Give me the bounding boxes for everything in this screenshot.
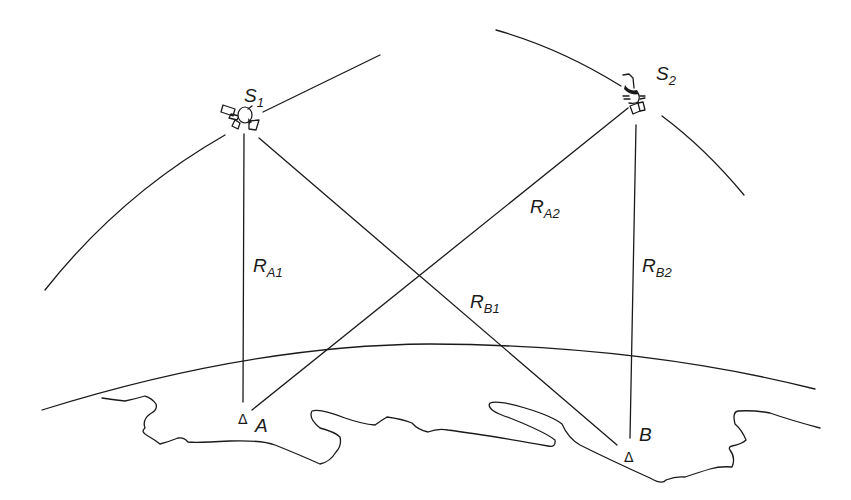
- station-label-B: B: [639, 424, 652, 445]
- range-label-RB2: RB2: [642, 255, 672, 280]
- range-label-RA2: RA2: [530, 196, 560, 221]
- station-marker-B: Δ: [624, 449, 634, 465]
- orbit-arc-1: [45, 55, 380, 290]
- station-label-A: A: [254, 415, 268, 436]
- orbit-arc-2: [496, 30, 744, 195]
- range-label-RB1: RB1: [470, 291, 500, 316]
- earth-surface-arc: [42, 344, 815, 410]
- range-line-RA2: [252, 108, 628, 410]
- satellite-icon: [221, 105, 259, 130]
- station-marker-A: Δ: [238, 411, 248, 427]
- satellite-ranging-diagram: S1 S2 RA1 RB1 RA2 RB2 Δ A Δ B: [0, 0, 851, 500]
- range-line-RA1: [243, 134, 244, 402]
- satellite-icon: [623, 74, 645, 114]
- range-label-RA1: RA1: [253, 255, 283, 280]
- satellite-label-S2: S2: [656, 63, 677, 88]
- coastline: [102, 396, 820, 482]
- range-line-RB1: [259, 138, 617, 445]
- range-line-RB2: [630, 125, 636, 438]
- satellite-label-S1: S1: [244, 85, 264, 110]
